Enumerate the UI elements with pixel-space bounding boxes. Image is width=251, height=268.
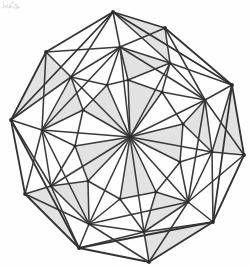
- figure-root: [0, 0, 251, 268]
- scan-speckle: [3, 5, 5, 6]
- graph-vertex-inner: [74, 145, 77, 148]
- scan-speckle: [6, 1, 7, 2]
- graph-vertex-outer: [147, 260, 151, 264]
- graph-vertex-outer: [242, 153, 246, 157]
- scan-speckle: [7, 4, 8, 6]
- scan-speckle: [18, 7, 20, 9]
- graph-vertex-inner: [182, 123, 185, 126]
- graph-vertex-middle: [70, 76, 73, 79]
- graph-vertex-middle: [143, 231, 146, 234]
- graph-vertex-outer: [9, 118, 13, 122]
- scan-speckle: [15, 7, 17, 9]
- graph-vertex-outer: [163, 26, 167, 30]
- graph-vertex-hub: [128, 135, 132, 139]
- scan-speckle: [7, 7, 9, 9]
- scan-speckle: [13, 7, 15, 9]
- scan-speckle: [5, 5, 7, 6]
- graph-vertex-inner: [106, 84, 109, 87]
- graph-vertex-inner: [127, 79, 130, 82]
- graph-vertex-middle: [119, 46, 122, 49]
- graph-vertex-inner: [179, 161, 182, 164]
- graph-vertex-outer: [111, 10, 115, 14]
- graph-drawing-svg: [0, 0, 251, 268]
- scan-speckle: [10, 3, 11, 5]
- graph-vertex-outer: [230, 83, 234, 87]
- graph-edge: [88, 181, 89, 224]
- graph-vertex-outer: [23, 192, 27, 196]
- scan-speckle: [3, 3, 4, 5]
- graph-vertex-outer: [77, 246, 81, 250]
- graph-edge: [212, 152, 213, 222]
- scan-speckle: [9, 5, 10, 6]
- graph-vertex-outer: [44, 50, 48, 54]
- scan-speckle: [15, 5, 17, 6]
- scan-speckle: [11, 6, 13, 7]
- scan-speckle: [3, 7, 5, 8]
- graph-vertex-inner: [155, 191, 158, 194]
- scan-speckle: [10, 6, 11, 7]
- graph-vertex-middle: [187, 201, 190, 204]
- graph-vertex-inner: [82, 109, 85, 112]
- graph-vertex-middle: [211, 151, 214, 154]
- scan-speckle: [12, 2, 14, 4]
- graph-vertex-inner: [87, 180, 90, 183]
- scan-speckle: [3, 2, 4, 3]
- graph-vertex-middle: [50, 185, 53, 188]
- graph-vertex-middle: [204, 99, 207, 102]
- graph-vertex-outer: [211, 220, 215, 224]
- graph-vertex-middle: [169, 62, 172, 65]
- graph-vertex-middle: [41, 129, 44, 132]
- scan-speckle: [17, 4, 19, 5]
- scan-speckle: [15, 4, 17, 5]
- graph-vertex-inner: [119, 198, 122, 201]
- scan-speckle: [10, 7, 11, 8]
- graph-vertex-inner: [161, 91, 164, 94]
- graph-vertex-middle: [88, 223, 91, 226]
